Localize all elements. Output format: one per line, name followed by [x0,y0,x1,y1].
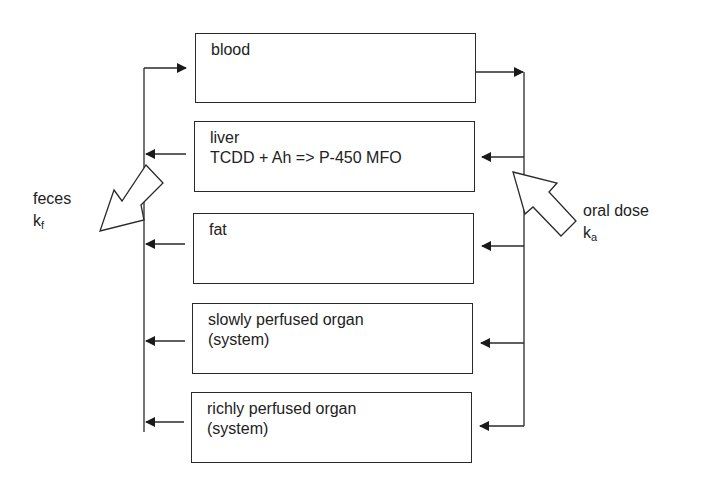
compartment-slowly-perfused-label: slowly perfused organ (system) [208,310,364,350]
feces-text: feces [33,188,71,210]
compartment-blood: blood [195,33,476,103]
compartment-blood-label: blood [211,40,250,60]
compartment-slowly-perfused: slowly perfused organ (system) [192,303,473,374]
oral-dose-rate-constant: ka [583,222,649,248]
feces-output-arrow-icon [100,165,163,231]
compartment-fat: fat [193,213,474,284]
feces-label: feces kf [33,188,71,236]
compartment-fat-label: fat [209,220,227,240]
compartment-richly-perfused: richly perfused organ (system) [191,392,472,463]
compartment-liver: liver TCDD + Ah => P-450 MFO [194,121,475,192]
feces-rate-constant: kf [33,210,71,236]
oral-dose-label: oral dose ka [583,200,649,248]
compartment-liver-label: liver TCDD + Ah => P-450 MFO [210,128,402,168]
oral-dose-input-arrow-icon [513,172,576,236]
compartment-richly-perfused-label: richly perfused organ (system) [207,399,356,439]
oral-dose-text: oral dose [583,200,649,222]
